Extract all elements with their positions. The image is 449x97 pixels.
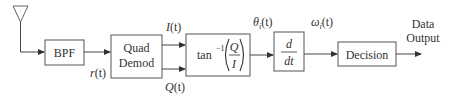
derivative-denominator: dt xyxy=(284,54,294,68)
bpf-label: BPF xyxy=(54,46,76,60)
r-signal-arg: (t) xyxy=(95,66,106,80)
svg-text:I(t): I(t) xyxy=(165,20,181,34)
decision-block: Decision xyxy=(338,42,396,66)
svg-text:ωi(t): ωi(t) xyxy=(311,15,333,31)
signal-omega: ωi(t) xyxy=(304,15,337,54)
svg-text:r(t): r(t) xyxy=(90,66,106,80)
quad-demod-label-line1: Quad xyxy=(124,41,150,55)
bpf-block: BPF xyxy=(45,40,84,65)
theta-signal-arg: (t) xyxy=(261,15,272,29)
output-label-line1: Data xyxy=(412,17,435,31)
fm-receiver-diagram: BPF r(t) Quad Demod I(t) Q(t) tan −1 Q xyxy=(0,0,449,97)
q-signal-arg: (t) xyxy=(174,80,185,94)
svg-text:θi(t): θi(t) xyxy=(253,15,272,31)
q-signal-name: Q xyxy=(165,80,174,94)
quad-demod-block: Quad Demod xyxy=(111,35,162,78)
omega-signal-arg: (t) xyxy=(322,15,333,29)
antenna-icon xyxy=(13,6,44,52)
signal-theta: θi(t) xyxy=(250,15,273,55)
decision-label: Decision xyxy=(346,48,389,62)
arctan-block: tan −1 Q I xyxy=(186,34,250,76)
output-label-line2: Output xyxy=(406,31,440,45)
data-output: Data Output xyxy=(396,17,440,54)
signal-i: I(t) xyxy=(162,20,185,45)
arctan-exponent: −1 xyxy=(216,44,225,53)
derivative-numerator: d xyxy=(286,37,293,51)
signal-r: r(t) xyxy=(84,52,110,80)
omega-signal-name: ω xyxy=(311,15,319,29)
arctan-func: tan xyxy=(197,48,212,62)
i-signal-arg: (t) xyxy=(170,20,181,34)
arctan-numerator: Q xyxy=(230,40,239,54)
derivative-block: d dt xyxy=(274,32,304,71)
signal-q: Q(t) xyxy=(162,69,185,94)
quad-demod-label-line2: Demod xyxy=(119,56,154,70)
svg-text:Q(t): Q(t) xyxy=(165,80,185,94)
